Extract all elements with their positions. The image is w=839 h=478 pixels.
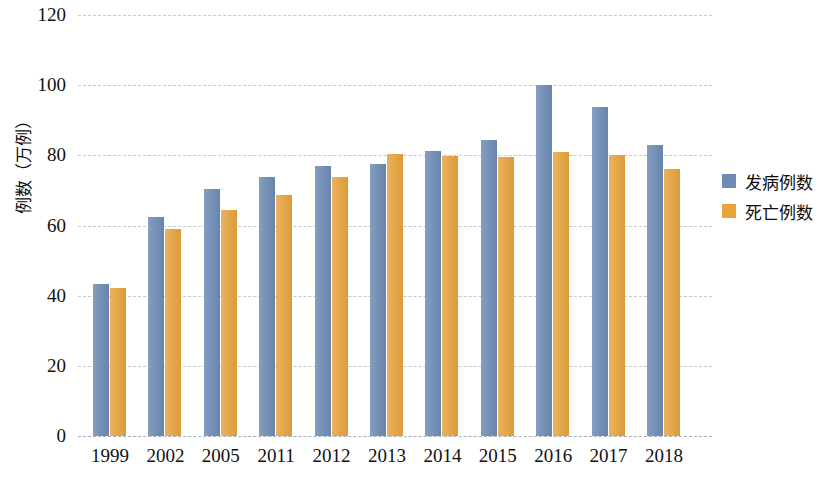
bar-incidence[interactable] [425,151,441,436]
x-tick-label: 2017 [579,446,639,467]
bar-incidence[interactable] [93,284,109,436]
bar-mortality[interactable] [110,288,126,436]
x-tick-label: 1999 [80,446,140,467]
x-tick-label: 2014 [412,446,472,467]
bar-mortality[interactable] [498,157,514,436]
bar-group [93,15,127,436]
x-tick-label: 2011 [246,446,306,467]
bar-incidence[interactable] [647,145,663,436]
bar-group [592,15,626,436]
legend-label: 死亡例数 [745,199,813,224]
bar-group [315,15,349,436]
y-tick-label: 120 [8,5,66,24]
bar-incidence[interactable] [148,217,164,436]
bar-mortality[interactable] [664,169,680,436]
y-tick-label: 20 [8,356,66,375]
bars-layer [78,15,712,436]
bar-mortality[interactable] [553,152,569,436]
y-tick-label: 40 [8,286,66,305]
bar-mortality[interactable] [442,156,458,436]
x-tick-label: 2015 [468,446,528,467]
legend-label: 发病例数 [745,169,813,194]
gridline [78,436,712,437]
bar-incidence[interactable] [592,107,608,436]
x-tick-label: 2016 [523,446,583,467]
bar-mortality[interactable] [387,154,403,436]
x-tick-label: 2005 [191,446,251,467]
bar-group [148,15,182,436]
bar-chart: 例数（万例） 020406080100120 19992002200520112… [0,0,839,478]
x-axis-tick-labels: 1999200220052011201220132014201520162017… [78,446,712,472]
x-tick-label: 2012 [302,446,362,467]
legend: 发病例数死亡例数 [722,166,834,226]
bar-group [647,15,681,436]
bar-mortality[interactable] [165,229,181,436]
legend-swatch-icon [722,204,736,218]
bar-group [370,15,404,436]
bar-mortality[interactable] [332,177,348,436]
bar-mortality[interactable] [609,155,625,436]
x-tick-label: 2013 [357,446,417,467]
bar-group [204,15,238,436]
x-tick-label: 2002 [135,446,195,467]
bar-incidence[interactable] [259,177,275,436]
bar-group [481,15,515,436]
bar-incidence[interactable] [481,140,497,436]
legend-item-mortality[interactable]: 死亡例数 [722,196,834,226]
bar-incidence[interactable] [315,166,331,436]
bar-group [536,15,570,436]
y-axis-title: 例数（万例） [10,53,35,273]
bar-group [259,15,293,436]
bar-mortality[interactable] [221,210,237,436]
y-tick-label: 0 [8,426,66,445]
plot-area [78,15,712,436]
bar-group [425,15,459,436]
legend-item-incidence[interactable]: 发病例数 [722,166,834,196]
bar-incidence[interactable] [370,164,386,436]
legend-swatch-icon [722,174,736,188]
bar-mortality[interactable] [276,195,292,436]
x-tick-label: 2018 [634,446,694,467]
bar-incidence[interactable] [204,189,220,436]
bar-incidence[interactable] [536,85,552,436]
